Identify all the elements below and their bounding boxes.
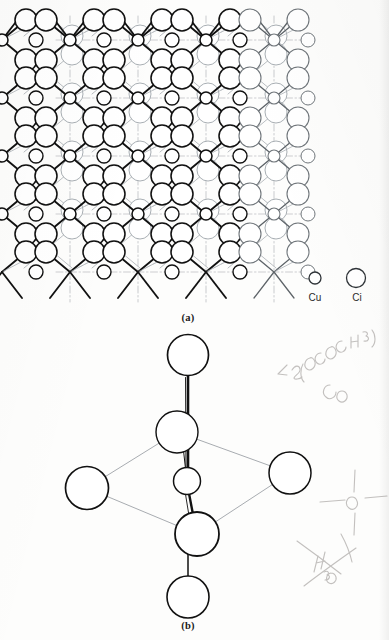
pencil-arrow (278, 365, 287, 375)
pencil-char-O (305, 358, 315, 370)
pencil-sketch-bond-left (320, 500, 345, 502)
pencil-long-stroke-2 (304, 548, 356, 586)
pencil-char-O3 (327, 573, 337, 584)
pencil-char-o (337, 391, 347, 402)
pencil-paren-open (301, 364, 304, 382)
pencil-strokes (278, 330, 387, 586)
pencil-char-C3 (323, 385, 336, 399)
pencil-sketch-bond-down (354, 513, 355, 535)
pencil-sketch-atom (346, 497, 357, 509)
pencil-char-H (351, 335, 358, 348)
pencil-long-stroke-1 (297, 541, 341, 574)
pencil-char-O2 (326, 347, 336, 359)
pencil-char-3 (363, 332, 368, 341)
pencil-sketch-bond-up (354, 470, 355, 492)
panel-a-caption: (a) (158, 312, 218, 323)
panel-b-caption: (b) (158, 620, 218, 631)
pencil-sketch-bond-right (365, 496, 387, 498)
pencil-char-C (315, 353, 325, 364)
pencil-paren-close (372, 330, 375, 347)
pencil-char-C2 (336, 341, 346, 352)
figure-root: Cu Ci (a) (b) (0, 0, 389, 640)
